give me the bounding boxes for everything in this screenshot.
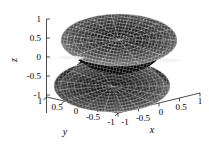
y-tick-label-neg0.5: -0.5 xyxy=(86,112,101,122)
x-tick-label-1: 1 xyxy=(198,96,203,106)
x-tick-label-0: 0 xyxy=(159,107,164,117)
x-tick-label-neg1: -1 xyxy=(121,117,129,127)
x-tick-label-neg0.5: -0.5 xyxy=(136,113,151,123)
y-axis-label: y xyxy=(62,126,68,137)
surface-plot-svg: 1 0.5 0 -0.5 -1 1 0.5 0 -0.5 -1 -1 -0.5 … xyxy=(0,0,209,153)
right-pinch-highlight xyxy=(160,58,182,62)
y-tick-1 xyxy=(44,97,47,100)
surface-group xyxy=(50,12,182,116)
z-tick-label-0.5: 0.5 xyxy=(30,33,42,43)
x-axis-label: x xyxy=(149,124,155,135)
y-tick-label-1: 1 xyxy=(38,96,43,106)
y-tick-label-0.5: 0.5 xyxy=(51,102,63,112)
z-tick-label-neg0.5: -0.5 xyxy=(27,71,42,81)
z-axis-label: z xyxy=(8,58,19,63)
x-tick-label-0.5: 0.5 xyxy=(175,102,187,112)
y-tick-label-neg1: -1 xyxy=(107,117,115,127)
z-tick-label-0: 0 xyxy=(37,52,42,62)
y-tick-neg1 xyxy=(115,113,118,116)
z-tick-label-1: 1 xyxy=(37,14,42,24)
upper-sheet xyxy=(58,12,182,74)
y-tick-label-0: 0 xyxy=(74,106,79,116)
figure-canvas: 1 0.5 0 -0.5 -1 1 0.5 0 -0.5 -1 -1 -0.5 … xyxy=(0,0,209,153)
